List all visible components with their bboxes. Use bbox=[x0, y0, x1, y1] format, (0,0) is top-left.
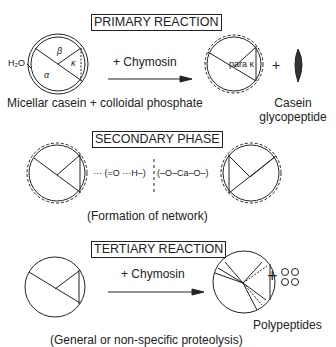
secondary-phase-title: SECONDARY PHASE bbox=[92, 131, 223, 148]
primary-reaction-title: PRIMARY REACTION bbox=[91, 14, 222, 31]
tertiary-reaction-title: TERTIARY REACTION bbox=[91, 241, 226, 258]
alpha-label: α bbox=[44, 70, 49, 80]
primary-plus: + bbox=[272, 57, 280, 73]
secondary-bond-left: ··· (=O ···H–) bbox=[93, 168, 146, 178]
tertiary-caption: (General or non-specific proteolysis) bbox=[50, 333, 243, 347]
polypeptide-circles bbox=[282, 269, 299, 286]
tertiary-plus: + bbox=[267, 266, 278, 287]
primary-right-caption-line1: Casein bbox=[274, 96, 311, 110]
primary-reagent-label: + Chymosin bbox=[113, 55, 177, 69]
primary-left-caption: Micellar casein + colloidal phosphate bbox=[7, 96, 203, 110]
kappa-label: κ bbox=[71, 58, 76, 68]
para-kappa-label: para κ bbox=[229, 59, 254, 69]
primary-right-caption-line2: glycopeptide bbox=[259, 110, 326, 124]
secondary-caption: (Formation of network) bbox=[87, 209, 208, 223]
secondary-bond-right: (–O–Ca–O–) bbox=[157, 168, 209, 178]
water-label: H₂O bbox=[8, 58, 25, 68]
beta-label: β bbox=[57, 46, 62, 56]
micelle-primary-left bbox=[28, 34, 88, 94]
micelle-tertiary-left bbox=[25, 257, 85, 317]
polypeptides-label: Polypeptides bbox=[253, 318, 322, 332]
micelle-secondary-right bbox=[221, 143, 281, 203]
micelle-secondary-left bbox=[27, 143, 87, 203]
micelle-tertiary-right bbox=[213, 251, 275, 313]
glycopeptide-shape bbox=[295, 49, 302, 82]
tertiary-reagent-label: + Chymosin bbox=[121, 267, 185, 281]
